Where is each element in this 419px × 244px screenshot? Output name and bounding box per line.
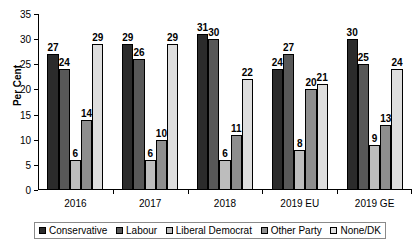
bar-group: 3025913242019 GE — [337, 14, 412, 190]
legend-item: Labour — [116, 225, 157, 236]
bar-group: 2724614292016 — [38, 14, 113, 190]
bar: 20 — [305, 89, 316, 190]
legend-swatch-icon — [166, 227, 173, 234]
bar-group: 2926610292017 — [113, 14, 188, 190]
bar-value-label: 22 — [242, 67, 253, 79]
bar-value-label: 25 — [358, 52, 369, 64]
bar-value-label: 27 — [283, 42, 294, 54]
x-axis-category-label: 2018 — [214, 198, 236, 209]
legend-item-label: Liberal Democrat — [176, 225, 252, 236]
bar: 6 — [70, 160, 81, 190]
bar: 31 — [197, 34, 208, 190]
y-axis-tick-label: 35 — [20, 9, 31, 20]
bar: 6 — [219, 160, 230, 190]
legend-swatch-icon — [261, 227, 268, 234]
bar: 29 — [167, 44, 178, 190]
bar-value-label: 6 — [73, 148, 79, 160]
bar-value-label: 10 — [156, 128, 167, 140]
y-axis-tick-label: 0 — [25, 185, 31, 196]
bar: 24 — [59, 69, 70, 190]
x-axis-tick — [337, 190, 338, 194]
bar: 14 — [81, 120, 92, 190]
x-axis-category-label: 2019 GE — [355, 198, 394, 209]
bar: 11 — [231, 135, 242, 190]
y-axis-tick-label: 25 — [20, 59, 31, 70]
legend-item-label: Labour — [126, 225, 157, 236]
x-axis-tick — [188, 190, 189, 194]
bar-value-label: 30 — [347, 27, 358, 39]
legend-swatch-icon — [330, 227, 337, 234]
bar-value-label: 8 — [297, 138, 303, 150]
plot-area: 0510152025303527246142920162926610292017… — [38, 14, 412, 190]
bar-value-label: 29 — [92, 32, 103, 44]
bar: 22 — [242, 79, 253, 190]
x-axis-tick — [113, 190, 114, 194]
legend-item: None/DK — [330, 225, 381, 236]
x-axis-tick — [262, 190, 263, 194]
y-axis-tick-label: 10 — [20, 134, 31, 145]
bar-value-label: 9 — [372, 133, 378, 145]
bar-group: 2427820212019 EU — [262, 14, 337, 190]
bar: 24 — [272, 69, 283, 190]
y-axis-tick-label: 20 — [20, 84, 31, 95]
bar-chart: Per Cent 0510152025303527246142920162926… — [0, 0, 419, 244]
x-axis-tick — [411, 190, 412, 194]
bar-value-label: 13 — [380, 113, 391, 125]
bar: 30 — [347, 39, 358, 190]
bar-group: 3130611222018 — [188, 14, 263, 190]
bar-value-label: 29 — [122, 32, 133, 44]
bar: 30 — [208, 39, 219, 190]
bar: 8 — [294, 150, 305, 190]
x-axis-category-label: 2019 EU — [280, 198, 319, 209]
bar-value-label: 24 — [391, 57, 402, 69]
bar: 13 — [380, 125, 391, 190]
bar-value-label: 24 — [272, 57, 283, 69]
bar-value-label: 11 — [231, 123, 242, 135]
legend-item: Liberal Democrat — [166, 225, 252, 236]
bar-value-label: 24 — [59, 57, 70, 69]
x-axis-category-label: 2016 — [64, 198, 86, 209]
bar: 26 — [133, 59, 144, 190]
bar: 21 — [317, 84, 328, 190]
legend-swatch-icon — [39, 227, 46, 234]
legend-item-label: Conservative — [49, 225, 107, 236]
bar-value-label: 21 — [317, 72, 328, 84]
legend-item-label: None/DK — [340, 225, 381, 236]
bar: 25 — [358, 64, 369, 190]
x-axis-category-label: 2017 — [139, 198, 161, 209]
bar: 10 — [156, 140, 167, 190]
bar: 6 — [145, 160, 156, 190]
bar-value-label: 29 — [167, 32, 178, 44]
y-axis-tick-label: 30 — [20, 34, 31, 45]
legend-item-label: Other Party — [271, 225, 322, 236]
bar: 27 — [47, 54, 58, 190]
bar-value-label: 20 — [305, 77, 316, 89]
bar: 24 — [391, 69, 402, 190]
bar-value-label: 31 — [197, 22, 208, 34]
bar: 27 — [283, 54, 294, 190]
legend-swatch-icon — [116, 227, 123, 234]
y-axis-tick — [34, 190, 38, 191]
y-axis-tick-label: 5 — [25, 159, 31, 170]
bar-value-label: 14 — [81, 108, 92, 120]
bar: 9 — [369, 145, 380, 190]
bar-value-label: 30 — [208, 27, 219, 39]
bar-value-label: 6 — [222, 148, 228, 160]
bar: 29 — [122, 44, 133, 190]
bar-value-label: 27 — [47, 42, 58, 54]
bar-value-label: 6 — [147, 148, 153, 160]
chart-legend: ConservativeLabourLiberal DemocratOther … — [34, 222, 386, 239]
legend-item: Conservative — [39, 225, 107, 236]
legend-item: Other Party — [261, 225, 322, 236]
y-axis-tick-label: 15 — [20, 109, 31, 120]
bar-value-label: 26 — [133, 47, 144, 59]
bar: 29 — [92, 44, 103, 190]
